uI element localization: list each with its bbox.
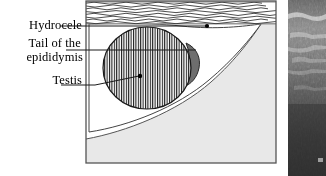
label-column: Hydrocele Tail of the epididymis Testis	[0, 0, 84, 176]
label-hydrocele-text: Hydrocele	[29, 18, 82, 32]
label-tail-of-epididymis: Tail of the epididymis	[26, 37, 83, 64]
ultrasound-deep-field	[288, 104, 326, 176]
testis-shape	[103, 27, 191, 109]
ultrasound-marker	[318, 158, 323, 162]
hydrocele-figure: Hydrocele Tail of the epididymis Testis	[0, 0, 326, 176]
ultrasound-scan	[288, 0, 326, 176]
label-testis-text: Testis	[52, 73, 82, 87]
scrotal-wall-band	[86, 2, 277, 25]
diagram-panel	[85, 0, 277, 164]
label-epididymis-line2: epididymis	[26, 51, 83, 65]
label-hydrocele: Hydrocele	[29, 19, 82, 33]
label-testis: Testis	[52, 74, 82, 88]
label-epididymis-line1: Tail of the	[26, 37, 83, 51]
ultrasound-image-strip	[288, 0, 326, 176]
anatomical-diagram	[85, 0, 277, 164]
